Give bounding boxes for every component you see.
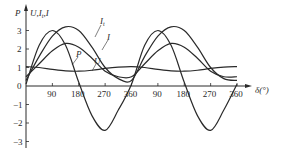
y-tick-label: 1 [17, 63, 22, 73]
x-tick-label: 90 [153, 89, 163, 99]
power-angle-chart: P U,It,I δ(°) 321−1−2−30 901802703609018… [0, 0, 283, 155]
y-tick-label: −2 [13, 118, 23, 128]
curve-labels: It I P U [72, 16, 111, 71]
x-tick-label: 360 [229, 89, 243, 99]
y-tick-label-zero: 0 [17, 81, 22, 91]
label-u: U [94, 56, 101, 66]
x-tick-label: 90 [47, 89, 57, 99]
y-tick-label: −1 [13, 100, 23, 110]
y-axis-label-p: P [14, 8, 21, 18]
x-tick-label: 270 [97, 89, 111, 99]
x-tick-label: 270 [203, 89, 217, 99]
y-axis-arrow-icon [24, 4, 28, 11]
y-tick-label: 2 [17, 44, 22, 54]
y-tick-label: −3 [13, 137, 23, 147]
x-ticks: 9018027036090180270360 [47, 83, 243, 99]
x-axis-label-delta: δ(°) [255, 85, 269, 95]
x-axis [26, 84, 252, 88]
x-axis-arrow-icon [245, 84, 252, 88]
curve-it [26, 27, 237, 83]
y-axis-label-u-it-i: U,It,I [30, 8, 50, 19]
label-p: P [75, 49, 82, 59]
y-tick-label: 3 [17, 26, 22, 36]
label-i: I [106, 32, 111, 42]
curves [26, 27, 237, 131]
label-it: It [99, 16, 105, 27]
